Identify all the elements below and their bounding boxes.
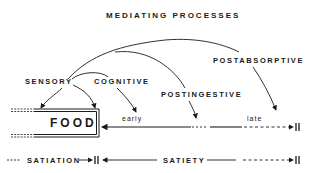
label-satiation: SATIATION (27, 156, 81, 165)
arrow-sensory-food-right (73, 85, 95, 108)
arrow-sensory-food-left (41, 88, 62, 108)
arrow-postabsorptive-late (253, 67, 276, 110)
label-sensory: SENSORY (25, 77, 73, 86)
arrow-cognitive-early (117, 88, 136, 112)
label-cognitive: COGNITIVE (94, 77, 150, 86)
label-late: late (247, 115, 262, 122)
food-box-label: FOOD (50, 116, 97, 130)
label-postabsorptive: POSTABSORPTIVE (213, 56, 304, 65)
diagram-title: MEDIATING PROCESSES (106, 11, 240, 20)
diagram-lines (0, 0, 309, 173)
arrow-postingestive (189, 101, 196, 118)
label-satiety: SATIETY (163, 156, 205, 165)
label-postingestive: POSTINGESTIVE (161, 90, 242, 99)
label-early: early (122, 115, 142, 122)
